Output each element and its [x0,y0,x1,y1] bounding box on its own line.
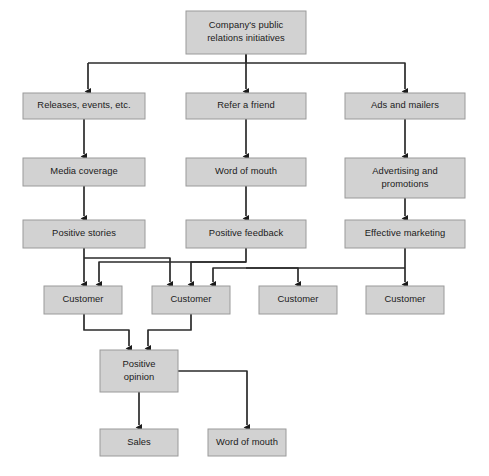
node-cust4[interactable]: Customer [366,286,444,314]
flowchart-canvas: Company's publicrelations initiativesRel… [0,0,489,476]
node-marketing[interactable]: Effective marketing [345,220,465,248]
node-layer: Company's publicrelations initiativesRel… [23,11,465,456]
node-stories[interactable]: Positive stories [23,220,145,248]
node-label-cust1: Customer [62,293,103,304]
node-label-opinion: opinion [124,371,155,382]
node-label-releases: Releases, events, etc. [37,99,130,110]
edge-opinion-to-wom2 [178,371,247,425]
node-refer[interactable]: Refer a friend [186,93,306,119]
node-label-wordmouth1: Word of mouth [215,165,277,176]
edge-cust2-to-opinion [148,314,191,346]
node-label-feedback: Positive feedback [209,227,284,238]
node-media[interactable]: Media coverage [23,158,145,186]
edge-marketing-to-cust3 [213,268,405,282]
node-cust3[interactable]: Customer [259,286,337,314]
node-label-media: Media coverage [50,165,117,176]
node-cust1[interactable]: Customer [44,286,122,314]
node-sales[interactable]: Sales [100,429,178,456]
node-label-cust4: Customer [384,293,425,304]
node-ads[interactable]: Ads and mailers [345,93,465,119]
edge-feedback-to-cust3 [246,268,298,282]
node-label-ads: Ads and mailers [371,99,439,110]
node-releases[interactable]: Releases, events, etc. [23,93,145,119]
flowchart-diagram: Company's publicrelations initiativesRel… [0,0,489,476]
node-label-wordmouth2: Word of mouth [216,436,278,447]
edge-root-to-releases [88,54,246,89]
edge-root-to-ads [246,63,405,89]
node-feedback[interactable]: Positive feedback [186,220,306,248]
node-label-cust3: Customer [277,293,318,304]
node-label-stories: Positive stories [52,227,116,238]
edge-feedback-to-cust1 [99,248,246,282]
node-label-sales: Sales [127,436,151,447]
node-label-marketing: Effective marketing [365,227,446,238]
node-cust2[interactable]: Customer [152,286,230,314]
node-label-root: Company's public [209,19,284,30]
node-label-cust2: Customer [170,293,211,304]
node-label-advertising: promotions [382,178,429,189]
node-label-advertising: Advertising and [372,165,437,176]
node-root[interactable]: Company's publicrelations initiatives [186,11,306,54]
node-opinion[interactable]: Positiveopinion [100,350,178,392]
node-wordmouth1[interactable]: Word of mouth [186,158,306,186]
node-label-opinion: Positive [122,358,155,369]
node-label-refer: Refer a friend [217,99,275,110]
node-label-root: relations initiatives [207,32,285,43]
edge-feedback-to-cust2 [191,262,246,282]
node-advertising[interactable]: Advertising andpromotions [345,158,465,198]
node-wordmouth2[interactable]: Word of mouth [208,429,286,456]
edge-cust1-to-opinion [84,314,129,346]
